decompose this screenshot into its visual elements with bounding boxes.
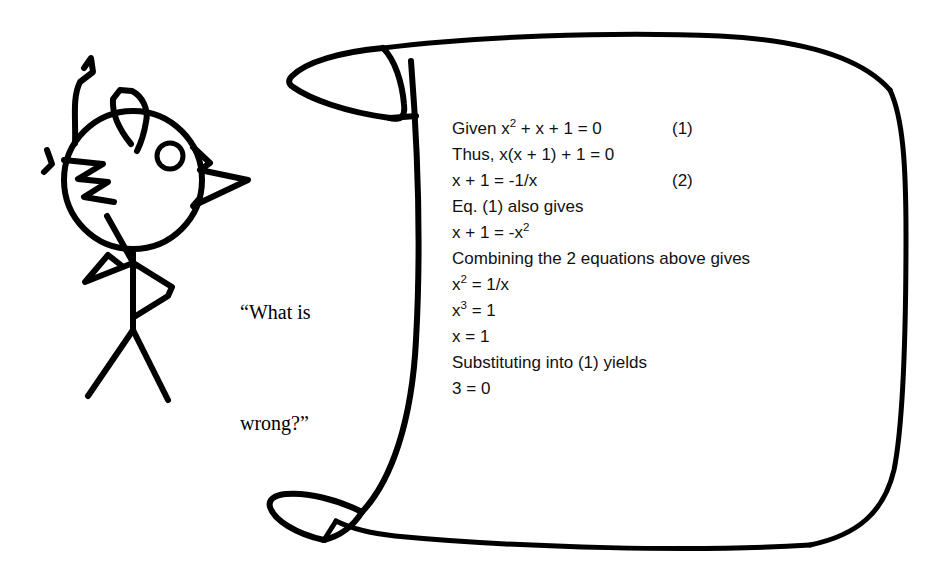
proof-line-body: Eq. (1) also gives <box>452 197 584 216</box>
proof-line-body: x3 = 1 <box>452 301 496 320</box>
proof-line: Substituting into (1) yields <box>452 350 772 376</box>
proof-line: x2 = 1/x <box>452 272 772 298</box>
drawing-canvas: “What is wrong?” Given x2 + x + 1 = 0(1)… <box>0 0 939 588</box>
proof-line: 3 = 0 <box>452 376 772 402</box>
proof-line-body: x + 1 = -x2 <box>452 223 529 242</box>
proof-line-body: Combining the 2 equations above gives <box>452 249 750 268</box>
proof-line: Eq. (1) also gives <box>452 194 772 220</box>
scroll-curl-top-inner <box>383 48 404 119</box>
stick-figure-person <box>44 58 248 400</box>
proof-line: x = 1 <box>452 324 772 350</box>
proof-line: x + 1 = -x2 <box>452 220 772 246</box>
hair-strand-side <box>44 150 52 172</box>
proof-line: Combining the 2 equations above gives <box>452 246 772 272</box>
proof-line-body: x2 = 1/x <box>452 275 509 294</box>
proof-line: x + 1 = -1/x(2) <box>452 168 772 194</box>
right-arm <box>134 264 172 317</box>
proof-line: x3 = 1 <box>452 298 772 324</box>
scroll-top-edge <box>383 34 890 90</box>
scroll-curl-top-outer <box>289 48 390 118</box>
proof-line: Given x2 + x + 1 = 0(1) <box>452 116 772 142</box>
scroll-spine <box>362 61 418 512</box>
speech-line-2: wrong?” <box>240 405 370 442</box>
speech-text: “What is wrong?” <box>240 220 370 516</box>
proof-equation-tag: (2) <box>672 168 693 194</box>
left-arm <box>85 255 133 282</box>
right-leg <box>133 330 168 400</box>
proof-line-body: Thus, x(x + 1) + 1 = 0 <box>452 145 614 164</box>
proof-line: Thus, x(x + 1) + 1 = 0 <box>452 142 772 168</box>
hair-strand-center <box>113 90 147 151</box>
eye-icon <box>157 143 183 169</box>
scroll-curl-top-tab <box>390 116 416 118</box>
speech-line-1: “What is <box>240 294 370 331</box>
proof-line-body: x = 1 <box>452 327 489 346</box>
scroll-right-edge <box>810 90 906 545</box>
proof-line-body: 3 = 0 <box>452 379 490 398</box>
scroll-bottom-edge <box>336 521 810 548</box>
proof-text-block: Given x2 + x + 1 = 0(1)Thus, x(x + 1) + … <box>452 116 772 402</box>
proof-equation-tag: (1) <box>672 116 693 142</box>
proof-line-body: Substituting into (1) yields <box>452 353 647 372</box>
left-leg <box>88 330 133 396</box>
proof-line-body: x + 1 = -1/x <box>452 171 537 190</box>
proof-line-body: Given x2 + x + 1 = 0 <box>452 119 602 138</box>
ear-squiggle <box>64 160 114 202</box>
